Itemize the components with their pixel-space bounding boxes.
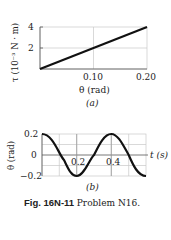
- panel-a-xtick-020: 0.20: [136, 73, 156, 82]
- panel-b-xtick-02: 0.2: [71, 158, 85, 167]
- panel-a-ylabel: τ (10⁻³ N · m): [10, 23, 20, 82]
- panel-b-ytick-02: 0.2: [24, 130, 38, 139]
- panel-b-xlabel: t (s): [150, 150, 168, 160]
- panel-a-ytick-4: 4: [28, 23, 34, 32]
- panel-b-label: (b): [86, 182, 99, 192]
- panel-a-xtick-010: 0.10: [83, 73, 103, 82]
- panel-a-label: (a): [86, 98, 98, 108]
- panel-b-xtick-04: 0.4: [106, 158, 120, 167]
- panel-a-ytick-2: 2: [28, 44, 34, 53]
- panel-b-ytick-0: 0: [31, 151, 37, 160]
- caption-text: Problem N16.: [77, 198, 140, 208]
- panel-b-ylabel: θ (rad): [6, 141, 16, 170]
- panel-b-ytick-neg02: −0.2: [20, 172, 42, 181]
- figure-caption: Fig. 16N-11 Problem N16.: [24, 197, 140, 208]
- panel-a-xlabel: θ (rad): [79, 85, 110, 95]
- figure-number: Fig. 16N-11: [24, 197, 74, 208]
